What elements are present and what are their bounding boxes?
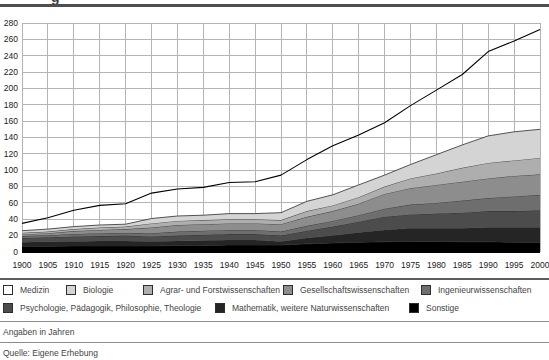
legend-item: Biologie (66, 285, 113, 295)
legend-item: Agrar- und Forstwissenschaften (143, 285, 280, 295)
x-tick-label: 1960 (323, 260, 342, 270)
legend-label: Gesellschaftswissenschaften (300, 285, 409, 295)
legend-swatch (3, 303, 13, 313)
legend-label: Sonstige (426, 303, 459, 313)
x-tick-label: 1950 (272, 260, 291, 270)
legend-swatch (3, 285, 13, 295)
x-axis-tick-labels: 1900190519101915192019251930193519401945… (13, 260, 549, 270)
y-tick-label: 60 (9, 198, 19, 208)
x-tick-label: 1920 (116, 260, 135, 270)
y-tick-label: 200 (4, 83, 18, 93)
legend-row-1: MedizinBiologieAgrar- und Forstwissensch… (0, 285, 549, 299)
y-tick-label: 20 (9, 230, 19, 240)
x-tick-label: 1905 (38, 260, 57, 270)
x-tick-label: 1940 (220, 260, 239, 270)
legend-swatch (283, 285, 293, 295)
x-tick-label: 1990 (479, 260, 498, 270)
x-tick-label: 1915 (90, 260, 109, 270)
y-tick-label: 80 (9, 181, 19, 191)
legend-label: Medizin (20, 285, 49, 295)
x-tick-label: 1985 (453, 260, 472, 270)
y-tick-label: 160 (4, 116, 18, 126)
legend-label: Biologie (83, 285, 113, 295)
legend-swatch (421, 285, 431, 295)
y-tick-label: 240 (4, 51, 18, 61)
legend-swatch (409, 303, 419, 313)
x-tick-label: 1980 (427, 260, 446, 270)
legend-item: Sonstige (409, 303, 459, 313)
y-tick-label: 260 (4, 34, 18, 44)
legend-swatch (215, 303, 225, 313)
stacked-area-chart: 0204060801001201401601802002202402602801… (0, 8, 549, 278)
x-tick-label: 2000 (531, 260, 549, 270)
y-tick-label: 120 (4, 149, 18, 159)
y-axis-tick-labels: 020406080100120140160180200220240260280 (4, 18, 18, 257)
x-tick-label: 1910 (64, 260, 83, 270)
source-note: Quelle: Eigene Erhebung (3, 348, 98, 358)
y-tick-label: 40 (9, 214, 19, 224)
footnote-top-rule (0, 321, 549, 322)
legend-top-rule (0, 278, 549, 280)
x-tick-label: 1930 (168, 260, 187, 270)
y-tick-label: 100 (4, 165, 18, 175)
legend-item: Gesellschaftswissenschaften (283, 285, 409, 295)
x-tick-label: 1925 (142, 260, 161, 270)
x-tick-label: 1955 (297, 260, 316, 270)
legend-item: Mathematik, weitere Naturwissenschaften (215, 303, 389, 313)
y-tick-label: 140 (4, 132, 18, 142)
legend-label: Ingenieurwissenschaften (438, 285, 532, 295)
y-tick-label: 0 (13, 247, 18, 257)
y-tick-label: 180 (4, 100, 18, 110)
x-tick-label: 1965 (349, 260, 368, 270)
legend-label: Psychologie, Pädagogik, Philosophie, The… (20, 303, 201, 313)
x-tick-label: 1935 (194, 260, 213, 270)
y-tick-label: 280 (4, 18, 18, 28)
legend-item: Psychologie, Pädagogik, Philosophie, The… (3, 303, 201, 313)
legend-swatch (143, 285, 153, 295)
legend-item: Ingenieurwissenschaften (421, 285, 532, 295)
source-top-rule (0, 342, 549, 343)
x-tick-label: 1900 (13, 260, 32, 270)
legend-swatch (66, 285, 76, 295)
x-tick-label: 1995 (505, 260, 524, 270)
legend-label: Agrar- und Forstwissenschaften (160, 285, 280, 295)
x-tick-label: 1970 (375, 260, 394, 270)
x-tick-label: 1975 (401, 260, 420, 270)
y-tick-label: 220 (4, 67, 18, 77)
legend-row-2: Psychologie, Pädagogik, Philosophie, The… (0, 303, 549, 317)
x-tick-label: 1945 (246, 260, 265, 270)
legend-item: Medizin (3, 285, 49, 295)
report-page: g 02040608010012014016018020022024026028… (0, 0, 549, 360)
title-underline-rule (0, 4, 549, 7)
axis-unit-note: Angaben in Jahren (3, 327, 74, 337)
legend-label: Mathematik, weitere Naturwissenschaften (232, 303, 389, 313)
